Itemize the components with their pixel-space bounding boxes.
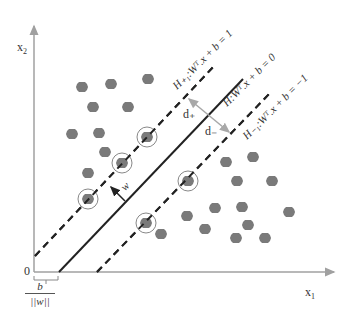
offset-denominator: ||w|| — [22, 295, 58, 307]
d-minus-label: d₋ — [205, 124, 217, 139]
d-plus-label: d₊ — [183, 107, 195, 122]
class-positive-points — [66, 74, 154, 178]
y-axis-label: x2 — [17, 40, 27, 56]
support-vectors — [78, 127, 198, 233]
x-axis-label: x1 — [305, 285, 315, 301]
offset-fraction: b ||w|| — [22, 280, 58, 307]
class-negative-points — [155, 152, 295, 243]
origin-label: 0 — [24, 264, 30, 279]
offset-numerator: b — [22, 280, 58, 292]
fraction-bar — [25, 293, 55, 294]
